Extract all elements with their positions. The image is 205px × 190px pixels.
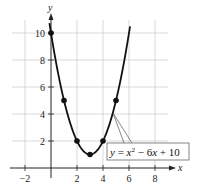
eq-minus: − 6	[135, 146, 153, 158]
equation-text: y = x2 − 6x + 10	[109, 146, 180, 158]
parabola-chart: −22468246810 y x y = x2 − 6x + 10	[0, 0, 205, 190]
data-point	[48, 30, 54, 36]
x-tick-label: 8	[153, 173, 158, 184]
eq-equals: =	[115, 146, 127, 158]
y-axis-label: y	[47, 2, 53, 13]
data-points	[48, 30, 119, 157]
y-tick-label: 6	[40, 82, 45, 93]
data-point	[100, 138, 106, 144]
x-tick-label: 2	[75, 173, 80, 184]
data-point	[113, 98, 119, 104]
eq-plus: + 10	[157, 146, 180, 158]
data-point	[74, 138, 80, 144]
curve	[49, 23, 130, 154]
data-point	[87, 152, 93, 158]
ticks: −22468246810	[20, 28, 158, 185]
y-tick-label: 2	[40, 136, 45, 147]
x-tick-label: 4	[101, 173, 106, 184]
y-tick-label: 10	[35, 28, 45, 39]
y-tick-label: 4	[40, 109, 45, 120]
x-axis-label: x	[177, 162, 183, 173]
x-tick-label: 6	[127, 173, 132, 184]
y-tick-label: 8	[40, 55, 45, 66]
x-axis-arrow-icon	[169, 166, 176, 171]
equation-annotation: y = x2 − 6x + 10	[107, 113, 189, 160]
x-tick-label: −2	[20, 173, 31, 184]
data-point	[61, 98, 67, 104]
parabola-curve	[49, 23, 130, 154]
y-axis-arrow-icon	[49, 13, 54, 20]
